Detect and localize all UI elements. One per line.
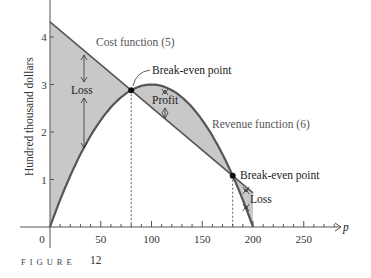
x-tick-label: 250 — [296, 233, 313, 245]
x-tick-label: 50 — [95, 233, 107, 245]
x-tick-label: 0 — [39, 233, 45, 245]
break-even-pointer-1 — [133, 70, 150, 86]
x-tick-label: 150 — [194, 233, 211, 245]
figure-caption: FIGURE — [21, 257, 76, 267]
figure-number: 12 — [90, 254, 102, 266]
break-even-label-2: Break-even point — [240, 169, 320, 182]
revenue-function-label: Revenue function (6) — [212, 118, 310, 131]
x-tick-label: 100 — [143, 233, 160, 245]
y-tick-label: 2 — [41, 126, 47, 138]
loss-label-2: Loss — [250, 193, 272, 205]
profit-label: Profit — [152, 94, 179, 106]
break-even-chart: 0501001502002501234 Cost function (5) Re… — [0, 0, 371, 278]
cost-function-label: Cost function (5) — [96, 36, 175, 49]
y-tick-label: 3 — [41, 79, 47, 91]
break-even-point-2 — [230, 173, 236, 179]
y-tick-label: 1 — [41, 174, 47, 186]
x-tick-label: 200 — [245, 233, 262, 245]
y-tick-label: 4 — [41, 31, 47, 43]
break-even-label-1: Break-even point — [152, 64, 232, 77]
x-axis-label: p — [342, 221, 349, 234]
y-axis-label: Hundred thousand dollars — [23, 57, 35, 176]
loss-label-1: Loss — [71, 84, 93, 96]
break-even-point-1 — [128, 87, 134, 93]
